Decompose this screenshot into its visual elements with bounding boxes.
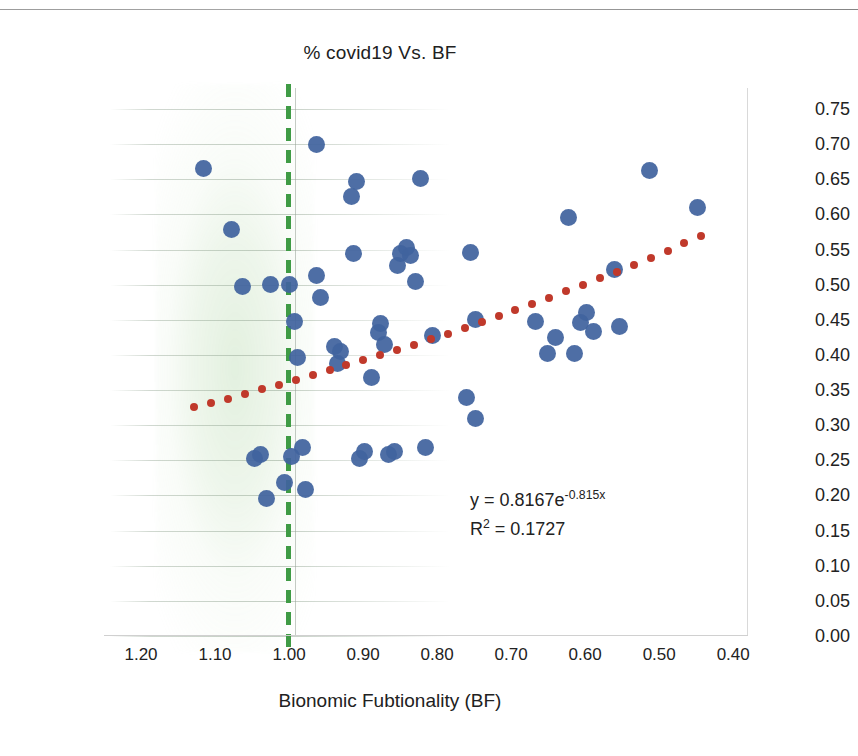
grid-line — [110, 355, 450, 356]
trendline-dot — [545, 294, 553, 302]
r-squared-value: = 0.1727 — [490, 519, 566, 539]
trendline-dot — [613, 268, 621, 276]
scatter-point — [539, 345, 556, 362]
y-axis-tick-label: 0.65 — [758, 169, 850, 190]
scatter-point — [312, 289, 329, 306]
scatter-point — [345, 245, 362, 262]
trendline-dot — [427, 335, 435, 343]
scatter-point — [566, 345, 583, 362]
grid-line — [110, 320, 450, 321]
y-axis-tick-label: 0.70 — [758, 134, 850, 155]
grid-line — [110, 390, 450, 391]
y-axis-tick-label: 0.55 — [758, 239, 850, 260]
y-axis-tick-label: 0.30 — [758, 415, 850, 436]
grid-line — [110, 425, 450, 426]
reference-line — [286, 84, 291, 650]
scatter-point — [402, 247, 419, 264]
y-axis-tick-label: 0.35 — [758, 380, 850, 401]
grid-line — [110, 109, 450, 110]
scatter-point — [386, 443, 403, 460]
scatter-point — [195, 160, 212, 177]
scatter-point — [363, 369, 380, 386]
trendline-dot — [376, 351, 384, 359]
y-axis-tick-label: 0.15 — [758, 520, 850, 541]
trendline-dot — [393, 346, 401, 354]
scatter-point — [412, 170, 429, 187]
scatter-point — [286, 313, 303, 330]
scatter-point — [348, 173, 365, 190]
trendline-dot — [596, 274, 604, 282]
scatter-point — [407, 273, 424, 290]
trendline-dot — [647, 254, 655, 262]
scatter-point — [372, 315, 389, 332]
scatter-point — [527, 313, 544, 330]
chart-title: % covid19 Vs. BF — [0, 42, 760, 64]
y-axis-tick-label: 0.05 — [758, 590, 850, 611]
scatter-point — [356, 443, 373, 460]
grid-line — [110, 601, 450, 602]
trendline-dot — [697, 232, 705, 240]
trendline-dot — [275, 381, 283, 389]
scatter-point — [417, 439, 434, 456]
scatter-point — [246, 450, 263, 467]
scatter-point — [258, 490, 275, 507]
y-axis-tick-label: 0.40 — [758, 344, 850, 365]
trendline-dot — [495, 312, 503, 320]
grid-line — [110, 144, 450, 145]
scatter-point — [462, 244, 479, 261]
trendline-dot — [410, 341, 418, 349]
plot-border-right — [747, 88, 748, 636]
x-axis-tick-label: 1.20 — [105, 645, 177, 665]
trendline-dot — [309, 371, 317, 379]
y-axis-tick-label: 0.00 — [758, 626, 850, 647]
r-squared-superscript: 2 — [483, 517, 490, 531]
scatter-point — [343, 188, 360, 205]
trendline-dot — [342, 361, 350, 369]
x-axis-tick-label: 1.10 — [179, 645, 251, 665]
trendline-dot — [528, 300, 536, 308]
scatter-point — [294, 439, 311, 456]
trendline-dot — [664, 247, 672, 255]
trendline-dot — [562, 287, 570, 295]
scatter-point — [308, 136, 325, 153]
trendline-dot — [579, 281, 587, 289]
x-axis-tick-label: 0.50 — [623, 645, 695, 665]
y-axis-tick-label: 0.20 — [758, 485, 850, 506]
trendline-dot — [224, 395, 232, 403]
scatter-point — [289, 349, 306, 366]
y-axis-tick-label: 0.75 — [758, 99, 850, 120]
x-axis-title: Bionomic Fubtionality (BF) — [0, 690, 780, 712]
trendline-dot — [241, 390, 249, 398]
trendline-dot — [478, 318, 486, 326]
trendline-annotation: y = 0.8167e-0.815x R2 = 0.1727 — [470, 486, 605, 544]
x-axis-tick-label: 0.80 — [401, 645, 473, 665]
y-axis-tick-label: 0.45 — [758, 309, 850, 330]
grid-line — [110, 566, 450, 567]
trendline-dot — [359, 356, 367, 364]
trendline-dot — [444, 330, 452, 338]
trendline-dot — [190, 403, 198, 411]
chart-figure: % covid19 Vs. BF 0.750.700.650.600.550.5… — [0, 0, 858, 756]
scatter-point — [547, 329, 564, 346]
y-axis-tick-label: 0.60 — [758, 204, 850, 225]
scatter-point — [611, 318, 628, 335]
x-axis-tick-label: 0.90 — [327, 645, 399, 665]
trendline-dot — [680, 239, 688, 247]
grid-line — [110, 460, 450, 461]
trendline-dot — [630, 261, 638, 269]
scatter-point — [234, 278, 251, 295]
scatter-point — [560, 209, 577, 226]
grid-line — [110, 531, 450, 532]
trendline-dot — [461, 324, 469, 332]
plot-area — [104, 88, 748, 636]
scatter-point — [585, 323, 602, 340]
grid-line — [110, 636, 450, 637]
scatter-point — [467, 410, 484, 427]
r-squared-line: R2 = 0.1727 — [470, 515, 605, 544]
grid-line — [110, 214, 450, 215]
scatter-point — [223, 221, 240, 238]
x-axis-tick-label: 0.70 — [475, 645, 547, 665]
scatter-point — [458, 389, 475, 406]
trendline-dot — [292, 376, 300, 384]
r-squared-prefix: R — [470, 519, 483, 539]
